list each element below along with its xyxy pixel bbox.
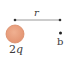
distance-start-dot [14,19,17,22]
charge-label: 2q [9,43,23,56]
point-b-dot [59,32,62,35]
charge-circle [6,25,24,43]
distance-label: r [34,7,39,18]
distance-end-dot [59,19,62,22]
diagram: r 2q b [0,0,66,61]
point-label: b [57,36,63,47]
